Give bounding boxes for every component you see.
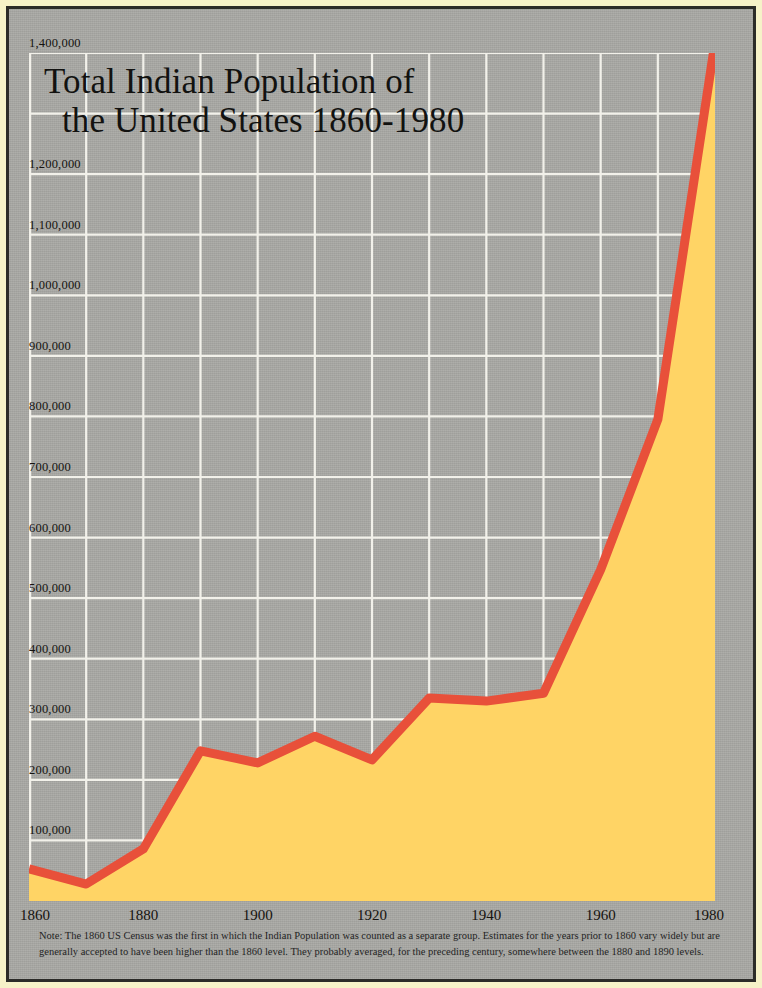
x-axis-tick-label: 1920 [357,901,387,924]
x-axis-tick-label: 1940 [471,901,501,924]
chart-note: Note: The 1860 US Census was the first i… [39,928,734,961]
x-axis-tick-label: 1860 [20,901,50,924]
page-title: Total Indian Population of the United St… [44,62,564,140]
x-axis-labels: 1860188019001920194019601980 [29,901,715,927]
x-axis-tick-label: 1960 [586,901,616,924]
x-axis-tick-label: 1900 [243,901,273,924]
title-line-1: Total Indian Population of [44,62,564,101]
poster: 1,400,0001,200,0001,100,0001,000,000900,… [0,0,762,988]
x-axis-tick-label: 1880 [128,901,158,924]
population-area-chart [29,53,715,901]
x-axis-tick-label: 1980 [694,901,724,924]
title-line-2: the United States 1860-1980 [44,101,564,140]
chart-plot-area [29,53,715,901]
